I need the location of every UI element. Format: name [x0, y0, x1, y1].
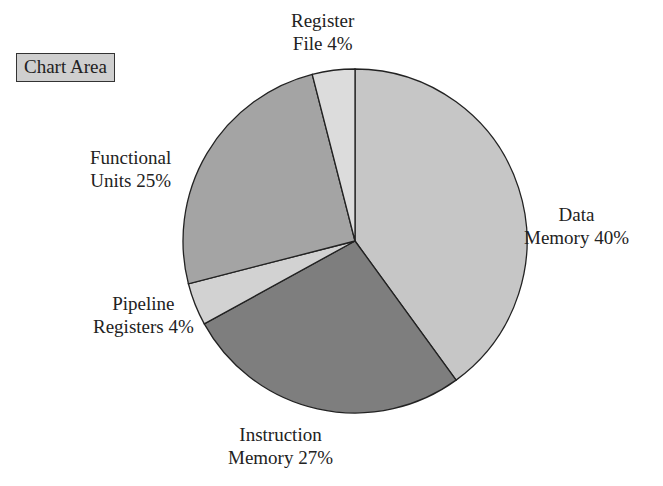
label-instruction-memory: Instruction Memory 27%: [228, 423, 333, 469]
label-data-memory: Data Memory 40%: [524, 203, 629, 249]
label-pipeline-registers: Pipeline Registers 4%: [93, 292, 194, 338]
label-register-file: Register File 4%: [291, 9, 354, 55]
label-functional-units: Functional Units 25%: [90, 146, 171, 192]
